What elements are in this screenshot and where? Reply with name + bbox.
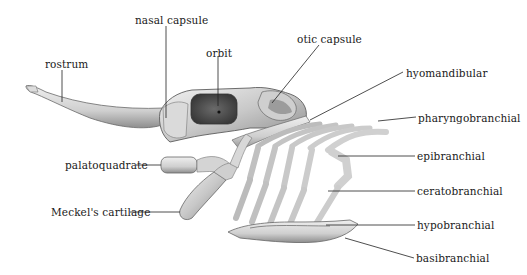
label-hypobranchial: hypobranchial (417, 219, 494, 231)
label-palatoquadrate: palatoquadrate (65, 159, 148, 171)
label-meckels-cartilage: Meckel's cartilage (51, 206, 150, 218)
label-otic-capsule: otic capsule (297, 33, 362, 45)
label-orbit: orbit (206, 47, 232, 59)
orbit-shape (191, 94, 237, 124)
label-hyomandibular: hyomandibular (406, 67, 488, 79)
label-pharyngobranchial: pharyngobranchial (418, 112, 521, 124)
skull-illustration (0, 0, 527, 275)
basibranchial-shape (228, 220, 358, 243)
label-basibranchial: basibranchial (416, 252, 489, 264)
label-epibranchial: epibranchial (417, 150, 485, 162)
label-nasal-capsule: nasal capsule (135, 14, 208, 26)
rostrum-shape (26, 85, 170, 127)
label-ceratobranchial: ceratobranchial (417, 185, 503, 197)
label-rostrum: rostrum (45, 58, 88, 70)
